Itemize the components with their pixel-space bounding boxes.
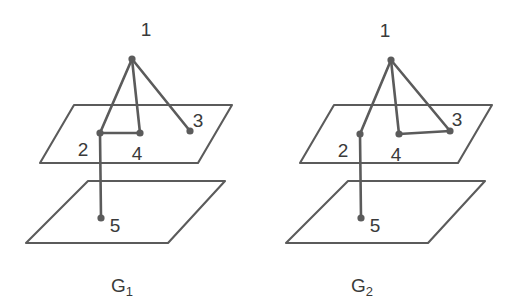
diagram-g2: 12345G2 — [286, 20, 492, 299]
g2-edge-1-3 — [391, 60, 450, 131]
g2-vertex-1 — [387, 56, 394, 63]
g2-edge-1-4 — [391, 60, 399, 134]
g1-vertex-label-3: 3 — [193, 110, 204, 131]
g2-edge-1-2 — [360, 60, 391, 134]
graph-figure-canvas: 12345G112345G2 — [0, 0, 523, 307]
caption-g1: G1 — [111, 275, 133, 299]
caption-base-g2: G — [351, 275, 366, 296]
g2-vertex-4 — [395, 130, 402, 137]
caption-subscript-g2: 2 — [366, 284, 373, 299]
g1-vertex-label-2: 2 — [78, 139, 89, 160]
g2-vertex-label-3: 3 — [452, 109, 463, 130]
g1-lower-plane — [26, 181, 225, 243]
caption-base-g1: G — [111, 275, 126, 296]
g1-edge-1-3 — [132, 59, 190, 131]
g1-vertex-5 — [97, 214, 104, 221]
g2-lower-plane — [286, 181, 485, 243]
g1-edge-1-4 — [132, 59, 140, 133]
g2-vertex-label-1: 1 — [380, 20, 391, 41]
g1-vertex-label-4: 4 — [132, 143, 143, 164]
diagrams-layer: 12345G112345G2 — [26, 19, 492, 299]
g1-edge-1-2 — [100, 59, 132, 133]
g1-vertex-label-5: 5 — [110, 215, 121, 236]
diagram-g1: 12345G1 — [26, 19, 232, 299]
g2-vertex-5 — [357, 214, 364, 221]
g2-vertex-2 — [356, 130, 363, 137]
g2-edge-4-3 — [399, 131, 450, 134]
caption-subscript-g1: 1 — [126, 284, 133, 299]
figure-root: 12345G112345G2 — [0, 0, 523, 307]
g1-edge-2-5 — [100, 133, 101, 218]
g2-vertex-label-5: 5 — [370, 215, 381, 236]
g1-vertex-2 — [96, 129, 103, 136]
caption-g2: G2 — [351, 275, 373, 299]
g1-vertex-4 — [136, 129, 143, 136]
g1-vertex-1 — [128, 55, 135, 62]
g2-vertex-label-2: 2 — [338, 140, 349, 161]
g2-vertex-label-4: 4 — [391, 144, 402, 165]
g1-vertex-label-1: 1 — [141, 19, 152, 40]
g2-edge-2-5 — [360, 134, 361, 218]
